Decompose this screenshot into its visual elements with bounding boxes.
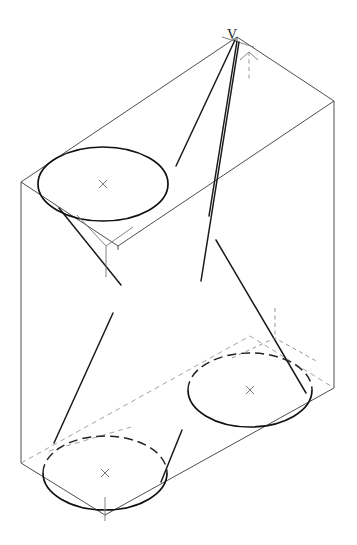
cone-bottom-right-base-visible-arc <box>188 390 312 427</box>
box-bottom-front-edges <box>21 388 334 515</box>
geometry-figure: V <box>0 0 357 545</box>
generator-apex-to-topleft-left <box>176 40 235 166</box>
generator-bottomright-upper <box>216 240 306 393</box>
cone-bottom-right-projection-dashed <box>232 308 318 362</box>
cone-bottom-left <box>43 427 167 521</box>
cone-top-left-projection-tick <box>77 215 133 277</box>
box-wireframe <box>21 37 334 515</box>
apex-label-v: V <box>227 27 237 42</box>
cone-top-left <box>38 147 168 277</box>
generator-apex-long-right <box>201 42 239 281</box>
cone-bottom-left-base-hidden-arc <box>43 436 167 473</box>
box-bottom-hidden-edge <box>21 336 334 463</box>
cone-generator-lines <box>54 40 306 482</box>
cone-bottom-right <box>188 308 318 427</box>
cone-bottom-right-center-mark <box>246 386 254 394</box>
cone-top-left-center-mark <box>99 180 107 188</box>
cone-bottom-left-center-mark <box>101 469 109 477</box>
generator-bottomleft-left <box>54 313 113 443</box>
drawing-canvas: V <box>0 0 357 545</box>
